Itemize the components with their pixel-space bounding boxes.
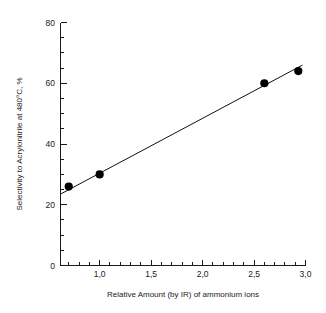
y-tick-label-20: 20 [46,200,56,210]
axis-lines [61,23,306,266]
x-axis-ticks [69,260,306,266]
x-tick-label-1-0: 1,0 [94,269,106,279]
y-tick-label-40: 40 [46,139,56,149]
x-tick-label-3-0: 3,0 [300,269,312,279]
data-point [96,170,104,178]
data-point [65,182,73,190]
data-point [260,79,268,87]
x-axis-tick-labels: 1,0 1,5 2,0 2,5 3,0 [94,269,312,279]
x-axis-title: Relative Amount (by IR) of ammonium ions [107,290,259,299]
y-axis-title: Selectivity to Acrylonitrile at 480°C, % [15,77,24,210]
y-tick-label-60: 60 [46,78,56,88]
data-point [294,67,302,75]
y-tick-label-0: 0 [50,261,55,271]
y-tick-label-80: 80 [46,18,56,28]
y-axis-ticks [61,23,67,266]
x-tick-label-2-5: 2,5 [248,269,260,279]
x-tick-label-1-5: 1,5 [145,269,157,279]
scatter-plot-svg: 0 20 40 60 80 [0,0,326,313]
y-axis-tick-labels: 0 20 40 60 80 [46,18,56,271]
x-tick-label-2-0: 2,0 [197,269,209,279]
plot-frame [61,23,306,266]
chart-figure: 0 20 40 60 80 [0,0,326,313]
